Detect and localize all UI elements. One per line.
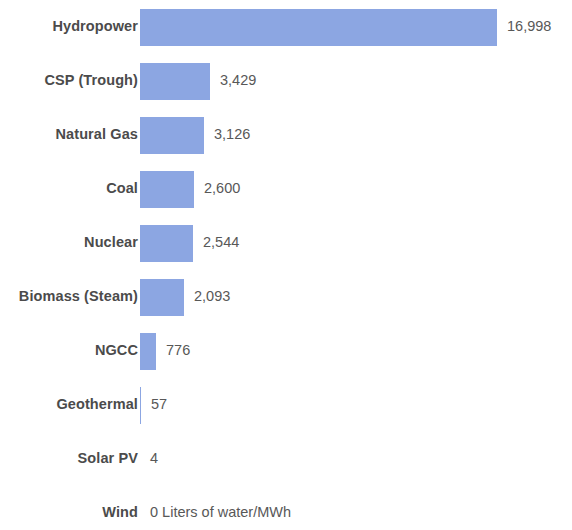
- bar-row: NGCC776: [0, 324, 572, 378]
- bar: [140, 9, 497, 46]
- bar: [140, 225, 193, 262]
- category-label: Wind: [0, 505, 140, 521]
- value-label: 3,126: [204, 127, 250, 143]
- value-label: 2,600: [194, 181, 240, 197]
- bar-track: 57: [140, 378, 572, 432]
- bar-track: 3,126: [140, 108, 572, 162]
- value-label: 57: [141, 397, 167, 413]
- bar-row: Wind0 Liters of water/MWh: [0, 486, 572, 530]
- bar-track: 2,093: [140, 270, 572, 324]
- value-label: 3,429: [210, 73, 256, 89]
- value-label: 776: [156, 343, 190, 359]
- bar-track: 776: [140, 324, 572, 378]
- bar-row: Solar PV4: [0, 432, 572, 486]
- category-label: Coal: [0, 181, 140, 197]
- bar-track: 2,600: [140, 162, 572, 216]
- bar: [140, 63, 210, 100]
- bar-track: 4: [140, 432, 572, 486]
- bar: [140, 333, 156, 370]
- category-label: Solar PV: [0, 451, 140, 467]
- bar-row: Nuclear2,544: [0, 216, 572, 270]
- bar-row: Natural Gas3,126: [0, 108, 572, 162]
- category-label: CSP (Trough): [0, 73, 140, 89]
- bar-row: Hydropower16,998: [0, 0, 572, 54]
- bar-track: 0 Liters of water/MWh: [140, 486, 572, 530]
- value-label: 16,998: [497, 19, 551, 35]
- value-label: 2,544: [193, 235, 239, 251]
- bar-track: 16,998: [140, 0, 572, 54]
- value-label: 0 Liters of water/MWh: [140, 505, 291, 521]
- category-label: Biomass (Steam): [0, 289, 140, 305]
- bar-row: Coal2,600: [0, 162, 572, 216]
- category-label: NGCC: [0, 343, 140, 359]
- bar-row: Biomass (Steam)2,093: [0, 270, 572, 324]
- category-label: Nuclear: [0, 235, 140, 251]
- bar: [140, 117, 204, 154]
- bar-row: CSP (Trough)3,429: [0, 54, 572, 108]
- bar-track: 3,429: [140, 54, 572, 108]
- value-label: 2,093: [184, 289, 230, 305]
- bar-row: Geothermal57: [0, 378, 572, 432]
- value-label: 4: [140, 451, 158, 467]
- horizontal-bar-chart: Hydropower16,998CSP (Trough)3,429Natural…: [0, 0, 572, 530]
- bar: [140, 279, 184, 316]
- bar: [140, 171, 194, 208]
- category-label: Natural Gas: [0, 127, 140, 143]
- category-label: Geothermal: [0, 397, 140, 413]
- bar-track: 2,544: [140, 216, 572, 270]
- category-label: Hydropower: [0, 19, 140, 35]
